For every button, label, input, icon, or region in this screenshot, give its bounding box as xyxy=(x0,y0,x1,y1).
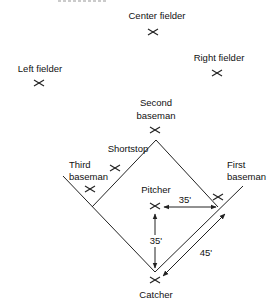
second-baseman-marker-icon xyxy=(150,127,160,133)
dim-label-pitcher-first: 35' xyxy=(179,194,191,206)
first-baseman-marker-icon xyxy=(213,194,223,200)
shortstop-marker-icon xyxy=(110,165,120,171)
left-fielder-label: Left fielder xyxy=(18,63,62,75)
right-fielder-marker-icon xyxy=(212,70,222,76)
catcher-marker-icon xyxy=(150,277,160,283)
third-baseman-label-line1: Third xyxy=(69,159,91,171)
third-baseman-marker-icon xyxy=(85,186,95,192)
left-fielder-marker-icon xyxy=(34,80,44,86)
right-fielder-label: Right fielder xyxy=(194,52,245,64)
first-baseman-label-line1: First xyxy=(227,159,245,171)
shortstop-label: Shortstop xyxy=(108,143,149,155)
first-baseman-label-line2: baseman xyxy=(227,171,266,183)
dim-label-pitcher-home: 35' xyxy=(150,235,162,247)
center-fielder-label: Center fielder xyxy=(128,10,185,22)
dim-arrow-home-first xyxy=(163,214,225,276)
second-baseman-label-line1: Second xyxy=(140,97,172,109)
pitcher-label: Pitcher xyxy=(141,184,171,196)
dim-label-home-first: 45' xyxy=(200,247,212,259)
center-fielder-marker-icon xyxy=(148,29,158,35)
third-baseman-label-line2: baseman xyxy=(69,171,108,183)
catcher-label: Catcher xyxy=(139,289,172,301)
second-baseman-label-line2: baseman xyxy=(136,110,175,122)
pitcher-marker-icon xyxy=(150,203,160,209)
baseball-field-diagram: Center fielder Right fielder Left fielde… xyxy=(0,0,273,305)
